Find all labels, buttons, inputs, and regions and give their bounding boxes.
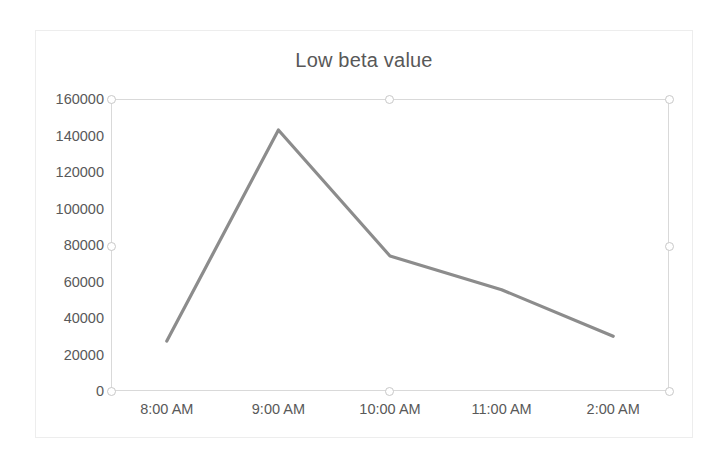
x-axis-tick-label: 10:00 AM — [359, 401, 420, 417]
y-axis-tick-label: 60000 — [64, 274, 104, 290]
handle-bottom-left[interactable] — [107, 387, 116, 396]
handle-middle-left[interactable] — [107, 242, 116, 251]
x-axis-tick-label: 8:00 AM — [140, 401, 193, 417]
y-axis-tick-label: 20000 — [64, 347, 104, 363]
x-axis-tick-label: 9:00 AM — [252, 401, 305, 417]
handle-top-center[interactable] — [385, 95, 394, 104]
handle-top-left[interactable] — [107, 95, 116, 104]
x-axis-tick-label: 2:00 AM — [587, 401, 640, 417]
y-axis-tick-label: 120000 — [56, 164, 104, 180]
y-axis-tick-labels: 0200004000060000800001000001200001400001… — [0, 0, 104, 461]
y-axis-tick-label: 100000 — [56, 201, 104, 217]
y-axis-tick-label: 160000 — [56, 91, 104, 107]
y-axis-tick-label: 40000 — [64, 310, 104, 326]
handle-middle-right[interactable] — [665, 242, 674, 251]
chart-plot-svg — [111, 99, 669, 391]
handle-bottom-center[interactable] — [385, 387, 394, 396]
handle-bottom-right[interactable] — [665, 387, 674, 396]
handle-top-right[interactable] — [665, 95, 674, 104]
data-series-line[interactable] — [167, 130, 613, 341]
x-axis-tick-labels: 8:00 AM9:00 AM10:00 AM11:00 AM2:00 AM — [111, 401, 669, 425]
y-axis-tick-label: 0 — [96, 383, 104, 399]
x-axis-tick-label: 11:00 AM — [471, 401, 531, 417]
chart-title[interactable]: Low beta value — [36, 49, 692, 72]
y-axis-tick-label: 80000 — [64, 237, 104, 253]
y-axis-tick-label: 140000 — [56, 128, 104, 144]
